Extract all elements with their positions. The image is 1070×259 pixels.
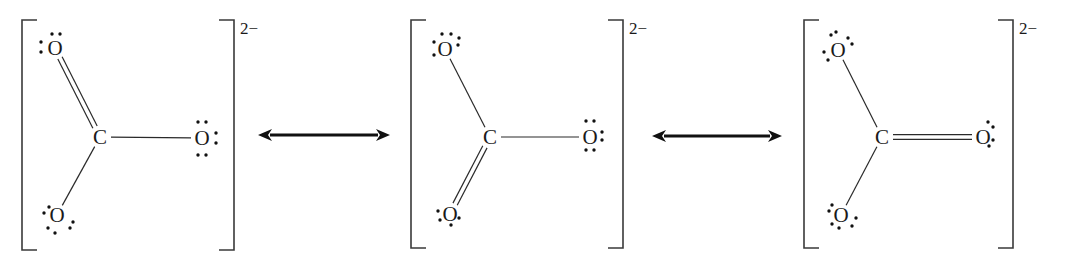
lone-pair-electron-dot (854, 216, 857, 219)
svg-text:O: O (194, 126, 209, 150)
lone-pair-electron-dot (827, 209, 830, 212)
carbonate-resonance-diagram: 2−COOO2−COOO2−COOO (0, 0, 1070, 259)
lone-pair-electron-dot (829, 33, 832, 36)
lone-pair-electron-dot (449, 32, 452, 35)
resonance-structure: 2−COOO (411, 19, 647, 248)
charge-label: 2− (1019, 19, 1037, 38)
lone-pair-electron-dot (457, 216, 460, 219)
oxygen-atom: O (194, 120, 217, 156)
lone-pair-electron-dot (830, 222, 833, 225)
lone-pair-electron-dot (196, 120, 199, 123)
svg-text:C: C (483, 125, 497, 149)
oxygen-atom: O (39, 32, 62, 60)
lone-pair-electron-dot (39, 40, 42, 43)
lone-pair-electron-dot (438, 218, 441, 221)
lone-pair-electron-dot (826, 58, 829, 61)
resonance-structure: 2−COOO (22, 19, 258, 250)
lone-pair-electron-dot (39, 50, 42, 53)
svg-text:O: O (47, 36, 62, 60)
single-bond (843, 60, 877, 127)
oxygen-atom: O (42, 203, 74, 235)
double-bond (453, 146, 487, 206)
arrows-layer (258, 129, 782, 142)
resonance-double-arrow-icon (258, 129, 390, 141)
double-bond (58, 57, 97, 129)
single-bond (111, 137, 191, 138)
svg-text:O: O (582, 125, 597, 149)
svg-text:O: O (442, 202, 457, 226)
lone-pair-electron-dot (50, 32, 53, 35)
lone-pair-electron-dot (584, 119, 587, 122)
lone-pair-electron-dot (436, 209, 439, 212)
lone-pair-electron-dot (830, 203, 833, 206)
lone-pair-electron-dot (214, 131, 217, 134)
svg-text:O: O (833, 203, 848, 227)
lone-pair-electron-dot (42, 211, 45, 214)
oxygen-atom: O (436, 202, 460, 227)
lone-pair-electron-dot (834, 30, 837, 33)
lone-pair-electron-dot (592, 148, 595, 151)
lone-pair-electron-dot (850, 42, 853, 45)
lone-pair-electron-dot (850, 224, 853, 227)
svg-text:C: C (93, 125, 107, 149)
lone-pair-electron-dot (457, 36, 460, 39)
oxygen-atom: O (975, 120, 994, 149)
resonance-structure: 2−COOO (804, 19, 1037, 248)
right-bracket (608, 20, 623, 248)
svg-text:O: O (437, 37, 452, 61)
single-bond (450, 59, 485, 127)
lone-pair-electron-dot (991, 138, 994, 141)
lone-pair-electron-dot (196, 153, 199, 156)
right-bracket (219, 20, 234, 250)
oxygen-atom: O (582, 119, 603, 151)
lone-pair-electron-dot (456, 43, 459, 46)
lone-pair-electron-dot (584, 148, 587, 151)
lone-pair-electron-dot (592, 119, 595, 122)
lone-pair-electron-dot (53, 231, 56, 234)
lone-pair-electron-dot (214, 141, 217, 144)
lone-pair-electron-dot (600, 130, 603, 133)
lone-pair-electron-dot (449, 223, 452, 226)
lone-pair-electron-dot (822, 50, 825, 53)
double-bond (893, 135, 972, 140)
lone-pair-electron-dot (47, 205, 50, 208)
svg-text:O: O (49, 203, 64, 227)
single-bond (846, 147, 877, 206)
lone-pair-electron-dot (71, 220, 74, 223)
lone-pair-electron-dot (432, 53, 435, 56)
left-bracket (22, 20, 37, 250)
carbon-atom: C (875, 125, 889, 149)
lone-pair-electron-dot (204, 153, 207, 156)
lone-pair-electron-dot (46, 226, 49, 229)
lone-pair-electron-dot (846, 36, 849, 39)
oxygen-atom: O (827, 203, 857, 230)
lone-pair-electron-dot (837, 226, 840, 229)
lone-pair-electron-dot (987, 144, 990, 147)
lone-pair-electron-dot (58, 32, 61, 35)
charge-label: 2− (629, 19, 647, 38)
carbon-atom: C (93, 125, 107, 149)
oxygen-atom: O (432, 32, 460, 61)
lone-pair-electron-dot (204, 120, 207, 123)
left-bracket (411, 20, 426, 248)
svg-text:O: O (830, 38, 845, 62)
right-bracket (998, 20, 1013, 248)
lone-pair-electron-dot (991, 125, 994, 128)
left-bracket (804, 20, 819, 248)
lone-pair-electron-dot (440, 32, 443, 35)
lone-pair-electron-dot (68, 226, 71, 229)
resonance-double-arrow-icon (652, 130, 782, 142)
structures-layer: 2−COOO2−COOO2−COOO (22, 19, 1037, 250)
lone-pair-electron-dot (600, 138, 603, 141)
svg-text:C: C (875, 125, 889, 149)
lone-pair-electron-dot (986, 120, 989, 123)
lone-pair-electron-dot (432, 40, 435, 43)
charge-label: 2− (240, 19, 258, 38)
single-bond (62, 147, 94, 206)
oxygen-atom: O (822, 30, 853, 62)
carbon-atom: C (483, 125, 497, 149)
